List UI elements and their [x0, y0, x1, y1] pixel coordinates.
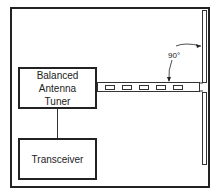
arrowhead-icon — [196, 44, 201, 48]
angle-arrows — [0, 0, 219, 194]
arrowhead-icon — [167, 77, 171, 82]
